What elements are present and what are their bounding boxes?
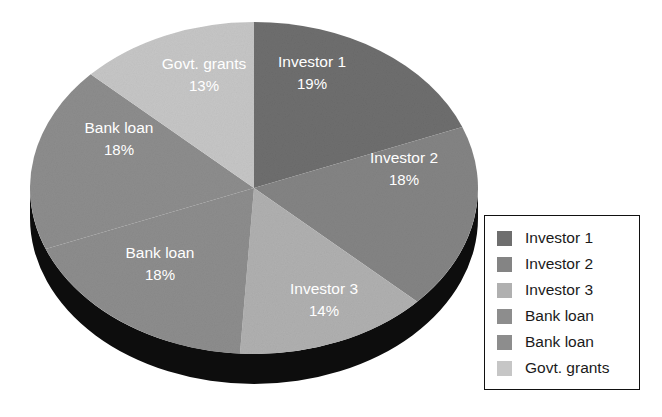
legend-swatch-icon	[497, 335, 512, 350]
slice-label-investor-1: Investor 1	[278, 53, 346, 70]
legend-swatch-icon	[497, 361, 512, 376]
legend-item-label: Investor 1	[525, 230, 593, 246]
legend-item-label: Investor 3	[525, 282, 593, 298]
pie-chart-figure: Investor 1 19% Investor 2 18% Investor 3…	[0, 0, 662, 417]
legend-item[interactable]: Investor 2	[485, 251, 639, 277]
slice-pct-bank-loan-lower: 18%	[145, 266, 175, 283]
slice-pct-govt-grants: 13%	[189, 77, 219, 94]
slice-label-bank-loan-upper: Bank loan	[85, 119, 154, 136]
slice-pct-investor-2: 18%	[389, 171, 419, 188]
legend-swatch-icon	[497, 257, 512, 272]
legend-item-label: Investor 2	[525, 256, 593, 272]
legend-item[interactable]: Bank loan	[485, 303, 639, 329]
legend-item-label: Govt. grants	[525, 360, 609, 376]
slice-label-investor-3: Investor 3	[290, 280, 358, 297]
legend-swatch-icon	[497, 283, 512, 298]
slice-pct-investor-1: 19%	[297, 75, 327, 92]
legend-item[interactable]: Investor 1	[485, 225, 639, 251]
legend-item[interactable]: Investor 3	[485, 277, 639, 303]
legend-swatch-icon	[497, 309, 512, 324]
slice-pct-bank-loan-upper: 18%	[104, 141, 134, 158]
legend-item[interactable]: Bank loan	[485, 329, 639, 355]
slice-label-investor-2: Investor 2	[370, 149, 438, 166]
legend-swatch-icon	[497, 231, 512, 246]
legend-item-label: Bank loan	[525, 308, 594, 324]
slice-pct-investor-3: 14%	[309, 302, 339, 319]
slice-label-govt-grants: Govt. grants	[162, 55, 247, 72]
legend-item-label: Bank loan	[525, 334, 594, 350]
slice-label-bank-loan-lower: Bank loan	[126, 244, 195, 261]
chart-legend: Investor 1Investor 2Investor 3Bank loanB…	[484, 215, 640, 390]
legend-item[interactable]: Govt. grants	[485, 355, 639, 381]
